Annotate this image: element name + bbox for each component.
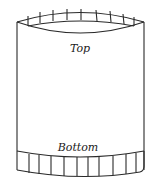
bottom-band [17,151,144,177]
bottom-band-right-curve [140,151,144,172]
bottom-label: Bottom [57,141,99,154]
top-crimp-tick [110,11,111,22]
top-rim [17,9,144,33]
top-rim-inner [28,21,134,26]
top-label: Top [70,42,90,55]
top-crimp-tick [96,10,97,21]
bottom-band-bottom-edge [17,170,140,177]
top-crimp-tick [123,14,124,24]
top-rim-outer-front [17,22,144,33]
cylinder-diagram: Top Bottom [0,0,152,186]
